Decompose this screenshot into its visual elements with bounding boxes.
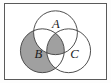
set-label-a: A [51, 17, 60, 31]
set-label-c: C [70, 47, 79, 61]
diagram-border-frame: A B C [4, 3, 107, 80]
venn-diagram-figure: A B C [0, 0, 111, 83]
set-label-b: B [35, 47, 43, 61]
venn-diagram-canvas: A B C [5, 4, 106, 79]
